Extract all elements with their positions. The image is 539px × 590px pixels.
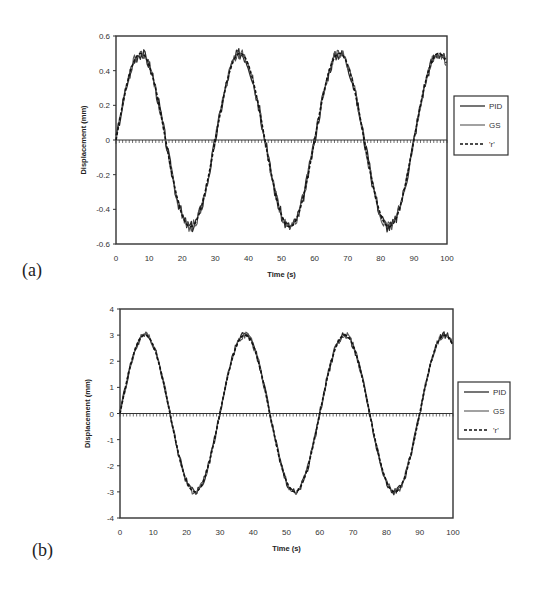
x-tick-label: 30 — [215, 528, 224, 537]
x-tick-label: 70 — [349, 528, 358, 537]
y-tick-label: -1 — [107, 436, 115, 445]
chart-b-plot: 43210-1-2-3-40102030405060708090100Time … — [0, 0, 539, 590]
legend-label: GS — [493, 407, 505, 416]
y-tick-label: 3 — [110, 331, 115, 340]
y-tick-label: 2 — [110, 357, 115, 366]
x-axis-title: Time (s) — [272, 544, 301, 553]
x-tick-label: 20 — [182, 528, 191, 537]
x-tick-label: 50 — [282, 528, 291, 537]
x-tick-label: 40 — [249, 528, 258, 537]
x-tick-label: 60 — [315, 528, 324, 537]
legend-label: PID — [493, 388, 507, 397]
x-tick-label: 90 — [415, 528, 424, 537]
x-tick-label: 80 — [382, 528, 391, 537]
legend: PIDGS'r' — [458, 382, 510, 439]
x-tick-label: 100 — [446, 528, 460, 537]
y-axis-title: Displacement (mm) — [83, 378, 92, 448]
y-tick-label: -4 — [107, 514, 115, 523]
y-tick-label: -3 — [107, 488, 115, 497]
panel-label-b: (b) — [32, 540, 53, 561]
y-tick-label: 4 — [110, 305, 115, 314]
y-tick-label: 1 — [110, 383, 115, 392]
x-tick-label: 10 — [149, 528, 158, 537]
x-tick-label: 0 — [118, 528, 123, 537]
chart-b: 43210-1-2-3-40102030405060708090100Time … — [0, 0, 539, 590]
y-tick-label: 0 — [110, 410, 115, 419]
legend-label: 'r' — [493, 426, 499, 435]
y-tick-label: -2 — [107, 462, 115, 471]
